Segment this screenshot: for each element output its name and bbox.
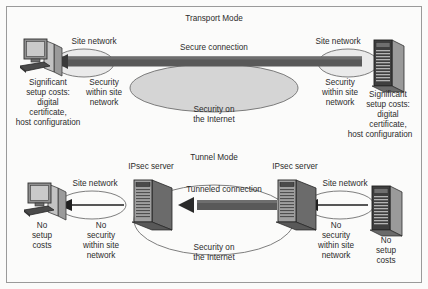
svg-text:security: security <box>322 231 351 240</box>
svg-text:No: No <box>37 221 48 230</box>
tunnel-left-site-network-label: Site network <box>72 179 118 188</box>
svg-text:network: network <box>87 251 117 260</box>
transport-right-server-tower-icon <box>372 40 404 92</box>
tunnel-connection-bar-highlight <box>197 200 277 203</box>
svg-text:No: No <box>96 221 107 230</box>
svg-text:Security: Security <box>89 78 119 87</box>
svg-text:costs: costs <box>32 241 51 250</box>
transport-left-site-network-label: Site network <box>71 37 117 46</box>
svg-text:digital: digital <box>377 110 399 119</box>
tunnel-mode-title: Tunnel Mode <box>190 153 238 162</box>
tunnel-left-gateway-label: IPsec server <box>128 162 174 171</box>
svg-text:setup: setup <box>376 246 396 255</box>
transport-connection-label: Secure connection <box>180 43 248 52</box>
svg-text:within site: within site <box>321 88 358 97</box>
tunnel-right-site-network-label: Site network <box>322 179 368 188</box>
svg-text:security: security <box>87 231 116 240</box>
transport-mode-title: Transport Mode <box>185 14 243 23</box>
transport-right-security-label: Security within site network <box>321 78 358 107</box>
network-diagram: Transport Mode <box>0 0 428 289</box>
svg-text:network: network <box>326 98 356 107</box>
svg-text:costs: costs <box>376 256 395 265</box>
tunnel-internet-label: Security on the Internet <box>193 243 235 262</box>
transport-left-security-label: Security within site network <box>85 78 122 107</box>
svg-text:within site: within site <box>85 88 122 97</box>
tunnel-connection-label: Tunneled connection <box>186 185 262 194</box>
figure-container: Transport Mode <box>0 0 428 289</box>
svg-text:Significant: Significant <box>369 90 408 99</box>
svg-text:setup: setup <box>32 231 52 240</box>
tunnel-right-server-tower-icon <box>370 186 402 236</box>
svg-text:within site: within site <box>82 241 119 250</box>
svg-text:setup costs:: setup costs: <box>366 100 410 109</box>
svg-text:setup costs:: setup costs: <box>26 88 70 97</box>
svg-text:Security: Security <box>325 78 355 87</box>
tunnel-right-gateway-label: IPsec server <box>272 162 318 171</box>
tunnel-right-ipsec-server-icon <box>276 180 316 230</box>
svg-text:network: network <box>322 251 352 260</box>
svg-text:No: No <box>381 236 392 245</box>
svg-text:the Internet: the Internet <box>193 253 235 262</box>
svg-text:Security on: Security on <box>194 105 235 114</box>
tunnel-left-ipsec-server-icon <box>132 180 172 230</box>
svg-text:No: No <box>331 221 342 230</box>
transport-right-site-network-label: Site network <box>315 37 361 46</box>
svg-text:digital: digital <box>37 98 59 107</box>
svg-text:Significant: Significant <box>29 78 68 87</box>
svg-text:Security on: Security on <box>194 243 235 252</box>
transport-internet-label: Security on the Internet <box>193 105 235 124</box>
svg-text:host configuration: host configuration <box>16 118 81 127</box>
svg-text:certificate,: certificate, <box>369 120 406 129</box>
svg-text:the Internet: the Internet <box>193 115 235 124</box>
svg-text:within site: within site <box>317 241 354 250</box>
svg-text:network: network <box>90 98 120 107</box>
svg-text:host configuration: host configuration <box>348 130 413 139</box>
transport-secure-connection-bar-highlight <box>62 57 362 60</box>
svg-text:certificate,: certificate, <box>29 108 66 117</box>
